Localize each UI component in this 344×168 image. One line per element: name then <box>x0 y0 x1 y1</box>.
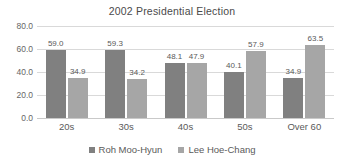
bar-value-label: 63.5 <box>308 34 324 43</box>
bar <box>165 63 185 118</box>
legend-entry[interactable]: Lee Hoe-Chang <box>178 144 255 155</box>
bar <box>246 51 266 118</box>
legend-label: Roh Moo-Hyun <box>99 144 163 155</box>
bars-layer: 59.034.959.334.248.147.940.157.934.963.5 <box>37 26 334 118</box>
bar-value-label: 34.9 <box>286 67 302 76</box>
y-axis-tick-label: 80.0 <box>3 21 33 31</box>
legend-swatch-icon <box>89 147 95 153</box>
y-axis-tick-label: 40.0 <box>3 67 33 77</box>
bar-value-label: 59.3 <box>107 39 123 48</box>
x-axis-tick-label: Over 60 <box>287 121 321 132</box>
x-axis-tick-label: 50s <box>237 121 252 132</box>
y-axis-tick-label: 0.0 <box>3 113 33 123</box>
x-axis-tick-label: 30s <box>118 121 133 132</box>
bar-value-label: 40.1 <box>226 61 242 70</box>
chart-title: 2002 Presidential Election <box>0 5 344 17</box>
bar <box>46 50 66 118</box>
bar <box>305 45 325 118</box>
bar <box>127 79 147 118</box>
bar-value-label: 57.9 <box>248 40 264 49</box>
bar-value-label: 48.1 <box>167 52 183 61</box>
legend-swatch-icon <box>178 147 184 153</box>
bar-value-label: 47.9 <box>189 52 205 61</box>
legend-label: Lee Hoe-Chang <box>188 144 255 155</box>
bar <box>224 72 244 118</box>
bar <box>187 63 207 118</box>
bar <box>68 78 88 118</box>
x-axis-labels: 20s30s40s50sOver 60 <box>37 121 334 137</box>
legend-entry[interactable]: Roh Moo-Hyun <box>89 144 163 155</box>
bar <box>105 50 125 118</box>
bar-value-label: 34.9 <box>70 67 86 76</box>
chart-legend: Roh Moo-HyunLee Hoe-Chang <box>0 144 344 155</box>
bar <box>283 78 303 118</box>
axis-baseline <box>37 118 334 119</box>
bar-chart: 2002 Presidential Election 59.034.959.33… <box>0 0 344 168</box>
x-axis-tick-label: 40s <box>178 121 193 132</box>
x-axis-tick-label: 20s <box>59 121 74 132</box>
y-axis-tick-label: 60.0 <box>3 44 33 54</box>
bar-value-label: 59.0 <box>48 39 64 48</box>
bar-value-label: 34.2 <box>129 68 145 77</box>
y-axis-tick-label: 20.0 <box>3 90 33 100</box>
